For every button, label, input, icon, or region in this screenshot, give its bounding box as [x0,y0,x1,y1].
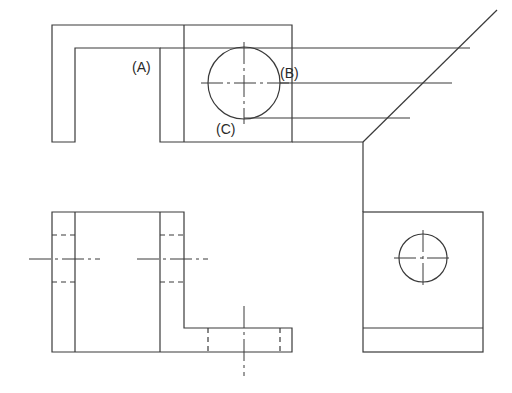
top-view [52,25,292,142]
label-b: (B) [280,66,299,80]
side-view [363,212,483,352]
label-c: (C) [216,122,235,136]
front-view [29,212,292,376]
miter-line [363,10,497,142]
orthographic-drawing [0,0,512,393]
projection-lines [160,10,497,212]
label-a: (A) [132,60,151,74]
